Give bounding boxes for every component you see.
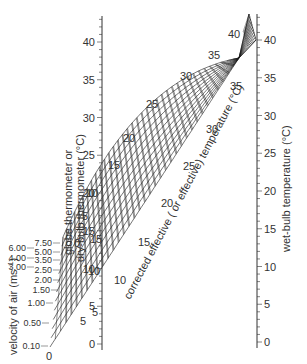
nomogram-chart: 0510152025303540 0510152025303540 051015… [0,0,307,364]
axis-tick-label: 25 [264,147,276,159]
cet-label-upper: 35 [208,49,220,61]
axis-tick-label: 15 [264,223,276,235]
axis-tick-label: 0 [89,338,95,350]
velocity-label: 6.00 [8,243,26,253]
cet-label-upper: 10 [86,187,98,199]
axis-tick-label: 35 [264,72,276,84]
velocity-label: 1.00 [27,298,45,308]
cet-label-upper: 40 [228,28,240,40]
cet-label-upper: 25 [146,98,158,110]
axis-tick-label: 30 [264,110,276,122]
velocity-label: 2.50 [34,265,52,275]
right-axis: 0510152025303540 [257,14,276,348]
velocity-label: 0.50 [23,318,41,328]
inner-label: 15 [90,233,102,245]
cet-label-upper: 15 [108,159,120,171]
axis-tick-label: 35 [83,74,95,86]
velocity-label: 5.00 [34,247,52,257]
velocity-axis-title: velocity of air (ms−1) [7,258,19,355]
axis-tick-label: 5 [264,298,270,310]
cet-label-upper: 20 [123,132,135,144]
left-axis-title-1: globe thermometer or [62,150,74,255]
inner-label: 10 [88,265,100,277]
nomogram-svg: 0510152025303540 0510152025303540 051015… [0,0,307,364]
right-axis-title: wet-bulb temperature (°C) [280,125,292,253]
axis-tick-label: 10 [264,261,276,273]
velocity-label: 1.50 [32,285,50,295]
cet-label-lower: 0 [46,350,52,362]
axis-tick-label: 40 [83,36,95,48]
velocity-label: 0.10 [22,341,40,351]
axis-tick-label: 40 [264,34,276,46]
axis-tick-label: 0 [264,336,270,348]
cet-label-lower: 5 [80,315,86,327]
velocity-label: 7.50 [34,238,52,248]
axis-tick-label: 30 [83,112,95,124]
left-axis-title-2: dry-bulb thermometer (°C) [74,134,86,262]
inner-label: 5 [92,306,98,318]
cet-label-lower: 10 [114,274,126,286]
cet-label-upper: 30 [180,70,192,82]
axis-tick-label: 20 [264,185,276,197]
velocity-label: 2.00 [34,275,52,285]
